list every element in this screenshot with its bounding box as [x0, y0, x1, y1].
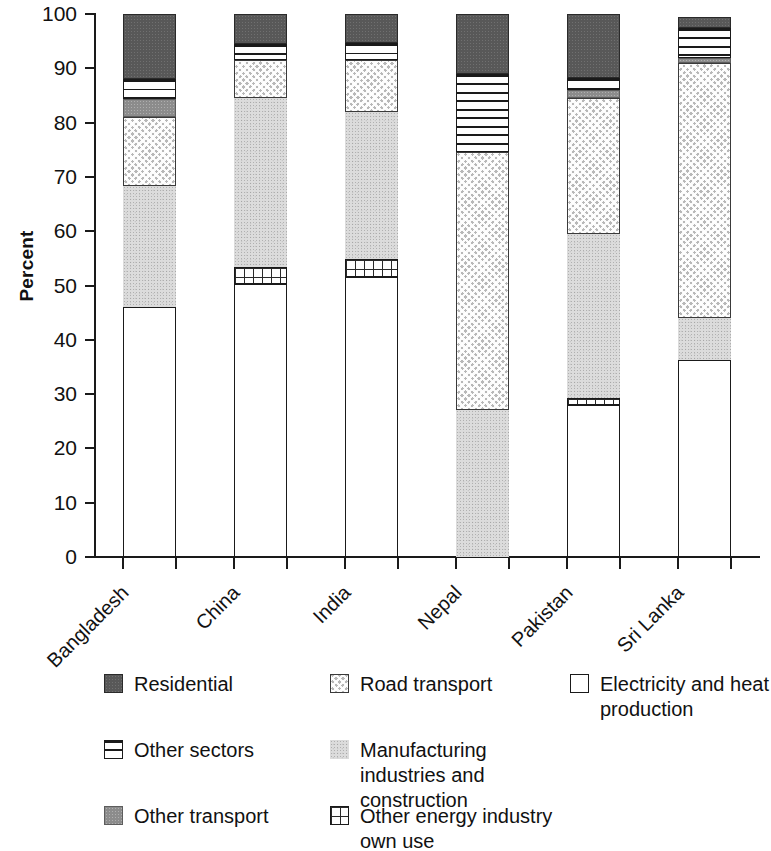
y-tick-mark — [85, 393, 94, 395]
x-tick-mark — [455, 558, 457, 569]
y-tick-label: 40 — [54, 329, 77, 350]
legend-label: Other transport — [134, 804, 269, 829]
bar-segment-manufacturing — [456, 410, 509, 557]
y-tick-mark — [85, 67, 94, 69]
bar-segment-other-energy — [345, 259, 398, 277]
y-tick-label: 30 — [54, 383, 77, 404]
y-tick-label: 100 — [42, 3, 77, 24]
bar-segment-residential — [678, 17, 731, 28]
bar-segment-manufacturing — [234, 98, 287, 266]
x-tick-mark — [508, 558, 510, 569]
y-tick-mark — [85, 13, 94, 15]
y-tick-mark — [85, 556, 94, 558]
legend-label: Other energy industry own use — [360, 804, 570, 851]
legend-label: Electricity and heat production — [600, 672, 770, 722]
y-tick-mark — [85, 122, 94, 124]
bar-segment-residential — [567, 14, 620, 78]
bar-segment-other-energy — [234, 267, 287, 284]
x-tick-mark — [286, 558, 288, 569]
x-tick-mark — [397, 558, 399, 569]
legend-label: Road transport — [360, 672, 492, 697]
bar-segment-other-sectors — [678, 28, 731, 58]
bar-segment-electricity — [678, 360, 731, 557]
bar-bangladesh — [123, 14, 176, 557]
bar-segment-other-transport — [678, 58, 731, 63]
bar-segment-electricity — [567, 405, 620, 557]
y-tick-mark — [85, 285, 94, 287]
legend-swatch-road-transport-icon — [330, 674, 349, 693]
legend-label: Residential — [134, 672, 233, 697]
bar-segment-road-transport — [567, 98, 620, 234]
chart-legend: ResidentialRoad transportElectricity and… — [104, 672, 764, 844]
bar-segment-other-transport — [123, 99, 176, 117]
legend-swatch-residential-icon — [104, 674, 123, 693]
bar-segment-manufacturing — [123, 186, 176, 307]
y-tick-label: 90 — [54, 57, 77, 78]
bar-segment-electricity — [123, 307, 176, 557]
y-tick-label: 20 — [54, 437, 77, 458]
bar-segment-residential — [456, 14, 509, 74]
y-tick-label: 80 — [54, 112, 77, 133]
legend-swatch-other-transport-icon — [104, 806, 123, 825]
bar-segment-manufacturing — [345, 112, 398, 259]
bar-segment-other-sectors — [456, 74, 509, 153]
y-tick-label: 10 — [54, 492, 77, 513]
x-tick-mark — [122, 558, 124, 569]
y-tick-mark — [85, 447, 94, 449]
legend-swatch-manufacturing-icon — [330, 740, 349, 759]
bar-segment-other-transport — [567, 90, 620, 98]
bar-segment-road-transport — [678, 63, 731, 317]
bar-segment-manufacturing — [567, 234, 620, 399]
y-tick-label: 0 — [65, 546, 77, 567]
bar-segment-electricity — [345, 277, 398, 557]
y-tick-mark — [85, 502, 94, 504]
legend-label: Manufacturing industries and constructio… — [360, 738, 570, 813]
legend-item-manufacturing[interactable]: Manufacturing industries and constructio… — [330, 738, 570, 813]
bar-india — [345, 14, 398, 557]
y-tick-label: 60 — [54, 220, 77, 241]
plot-area — [94, 14, 760, 557]
x-tick-mark — [677, 558, 679, 569]
x-tick-mark — [566, 558, 568, 569]
bar-segment-other-sectors — [345, 43, 398, 60]
x-tick-mark — [175, 558, 177, 569]
y-tick-label: 70 — [54, 166, 77, 187]
x-tick-mark — [619, 558, 621, 569]
legend-item-residential[interactable]: Residential — [104, 672, 334, 697]
legend-item-other-energy[interactable]: Other energy industry own use — [330, 804, 570, 851]
legend-swatch-other-sectors-icon — [104, 740, 123, 759]
x-tick-mark — [344, 558, 346, 569]
bar-segment-road-transport — [345, 60, 398, 112]
legend-label: Other sectors — [134, 738, 254, 763]
y-axis-title: Percent — [16, 221, 38, 311]
y-tick-mark — [85, 176, 94, 178]
bar-segment-other-sectors — [234, 44, 287, 60]
x-tick-mark — [233, 558, 235, 569]
bar-segment-other-sectors — [123, 79, 176, 99]
legend-item-other-transport[interactable]: Other transport — [104, 804, 334, 829]
bar-segment-electricity — [234, 284, 287, 557]
stacked-bar-chart-figure: Percent 0102030405060708090100 Banglades… — [0, 0, 771, 851]
bar-nepal — [456, 14, 509, 557]
legend-item-electricity[interactable]: Electricity and heat production — [570, 672, 770, 722]
bar-segment-manufacturing — [678, 318, 731, 360]
bar-pakistan — [567, 14, 620, 557]
bar-segment-other-energy — [567, 398, 620, 405]
bar-segment-road-transport — [123, 117, 176, 187]
y-tick-label: 50 — [54, 275, 77, 296]
bar-segment-residential — [234, 14, 287, 44]
bar-sri-lanka — [678, 14, 731, 557]
legend-item-road-transport[interactable]: Road transport — [330, 672, 570, 697]
bar-segment-road-transport — [234, 60, 287, 98]
bar-segment-other-sectors — [567, 78, 620, 90]
y-tick-mark — [85, 230, 94, 232]
bar-segment-road-transport — [456, 152, 509, 410]
bar-segment-residential — [123, 14, 176, 79]
bar-segment-residential — [345, 14, 398, 43]
legend-swatch-other-energy-icon — [330, 806, 349, 825]
y-tick-mark — [85, 339, 94, 341]
legend-swatch-electricity-icon — [570, 674, 589, 693]
legend-item-other-sectors[interactable]: Other sectors — [104, 738, 334, 763]
bar-china — [234, 14, 287, 557]
x-tick-mark — [730, 558, 732, 569]
